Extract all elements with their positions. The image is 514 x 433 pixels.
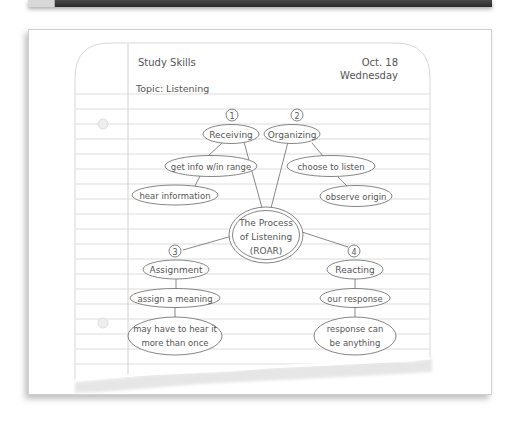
center-node: The Process of Listening (ROAR) <box>229 207 303 263</box>
step-label: Receiving <box>209 130 253 140</box>
detail-text: response can <box>327 324 384 334</box>
detail-text: assign a meaning <box>137 294 212 304</box>
center-line-2: of Listening <box>240 232 292 242</box>
binder-hole-bottom <box>98 318 108 328</box>
detail-text: observe origin <box>326 192 387 202</box>
detail-text: may have to hear it <box>133 324 217 334</box>
step-number: 4 <box>351 248 356 257</box>
binder-hole-top <box>98 119 108 129</box>
notebook-page: Study Skills Oct. 18 Wednesday Topic: Li… <box>0 0 514 433</box>
weekday-text: Wednesday <box>340 70 398 81</box>
step-label: Assignment <box>150 265 203 275</box>
subject-text: Study Skills <box>138 57 196 68</box>
detail-text: be anything <box>330 338 381 348</box>
step-number: 3 <box>172 248 177 257</box>
detail-text: get info w/in range <box>171 162 251 172</box>
topic-text: Topic: Listening <box>135 83 209 94</box>
step-label: Reacting <box>335 265 374 275</box>
detail-text: hear information <box>139 191 210 201</box>
date-text: Oct. 18 <box>362 57 398 68</box>
center-line-3: (ROAR) <box>250 246 283 256</box>
step-label: Organizing <box>268 130 317 140</box>
detail-text: more than once <box>141 338 208 348</box>
detail-node <box>128 317 222 355</box>
detail-text: choose to listen <box>297 162 364 172</box>
step-number: 2 <box>294 112 299 121</box>
detail-node <box>314 317 396 355</box>
center-line-1: The Process <box>238 218 293 228</box>
detail-text: our response <box>327 294 382 304</box>
step-number: 1 <box>229 112 234 121</box>
